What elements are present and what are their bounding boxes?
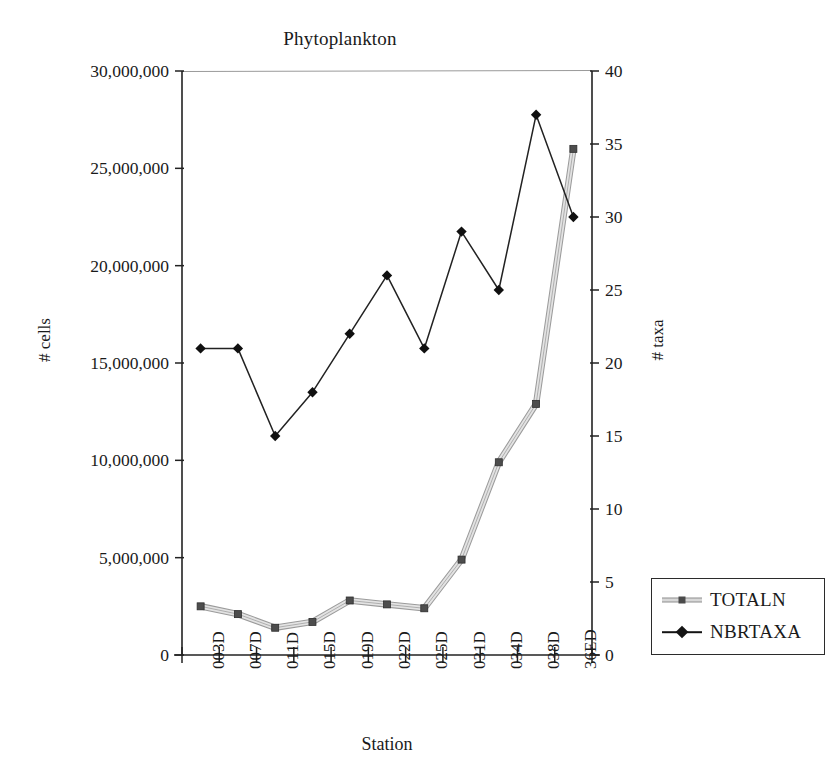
data-point-marker (233, 343, 243, 353)
plot-top-border (182, 71, 592, 72)
y-axis-left-tick-label: 5,000,000 (99, 547, 169, 568)
y-axis-left-tick-label: 15,000,000 (90, 353, 169, 374)
x-axis-tick-label: 011D (283, 632, 303, 669)
y-axis-right-tick-label: 40 (605, 61, 623, 82)
y-axis-left-tick-label: 10,000,000 (90, 450, 169, 471)
data-point-marker (384, 601, 391, 608)
data-point-marker (195, 343, 205, 353)
data-point-marker (494, 285, 504, 295)
y-axis-right-tick-label: 10 (605, 499, 623, 520)
y-axis-right-tick-label: 20 (605, 353, 623, 374)
data-point-marker (419, 343, 429, 353)
data-point-marker (495, 459, 502, 466)
x-axis-tick-label: 015D (320, 631, 340, 669)
data-point-marker (234, 611, 241, 618)
legend-item-totaln[interactable]: TOTALN (660, 585, 786, 615)
legend-key-nbrtaxa-icon (660, 623, 704, 641)
data-point-marker (346, 597, 353, 604)
data-point-marker (421, 605, 428, 612)
x-axis-tick-label: 019D (358, 631, 378, 669)
plot-area (0, 0, 838, 772)
y-axis-right-tick-label: 35 (605, 134, 623, 155)
data-point-marker (345, 329, 355, 339)
x-axis-tick-label: 025D (432, 631, 452, 669)
data-point-marker (309, 618, 316, 625)
series-line-inner (201, 149, 574, 628)
x-axis-tick-label: 007D (246, 631, 266, 669)
data-point-marker (533, 400, 540, 407)
y-axis-right-tick-label: 30 (605, 207, 623, 228)
data-point-marker (456, 226, 466, 236)
data-point-marker (570, 145, 577, 152)
chart-legend: TOTALN NBRTAXA (651, 578, 825, 655)
x-axis-tick-label: 031D (470, 631, 490, 669)
y-axis-left-tick-label: 30,000,000 (90, 61, 169, 82)
x-axis-tick-label: 003D (209, 631, 229, 669)
y-axis-right-tick-label: 5 (605, 572, 614, 593)
data-point-marker (382, 270, 392, 280)
data-point-marker (531, 110, 541, 120)
y-axis-right-tick-label: 15 (605, 426, 623, 447)
x-axis-tick-label: 36ED (581, 629, 601, 669)
chart-container: Phytoplankton # cells # taxa Station 05,… (0, 0, 838, 772)
legend-label-nbrtaxa: NBRTAXA (704, 621, 801, 643)
y-axis-left-tick-label: 20,000,000 (90, 255, 169, 276)
y-axis-left-tick-label: 0 (160, 645, 169, 666)
y-axis-right-tick-label: 0 (605, 645, 614, 666)
data-point-marker (458, 556, 465, 563)
y-axis-left-tick-label: 25,000,000 (90, 158, 169, 179)
x-axis-tick-label: 022D (395, 631, 415, 669)
legend-key-totaln-icon (660, 591, 704, 609)
y-axis-right-tick-label: 25 (605, 280, 623, 301)
series-nbrtaxa (195, 110, 578, 442)
legend-label-totaln: TOTALN (704, 589, 786, 611)
data-point-marker (272, 624, 279, 631)
legend-item-nbrtaxa[interactable]: NBRTAXA (660, 617, 801, 647)
data-point-marker (568, 212, 578, 222)
series-line-core (201, 149, 574, 628)
series-line-outer (201, 149, 574, 628)
x-axis-tick-label: 038D (544, 631, 564, 669)
data-point-marker (197, 603, 204, 610)
x-axis-tick-label: 034D (507, 631, 527, 669)
